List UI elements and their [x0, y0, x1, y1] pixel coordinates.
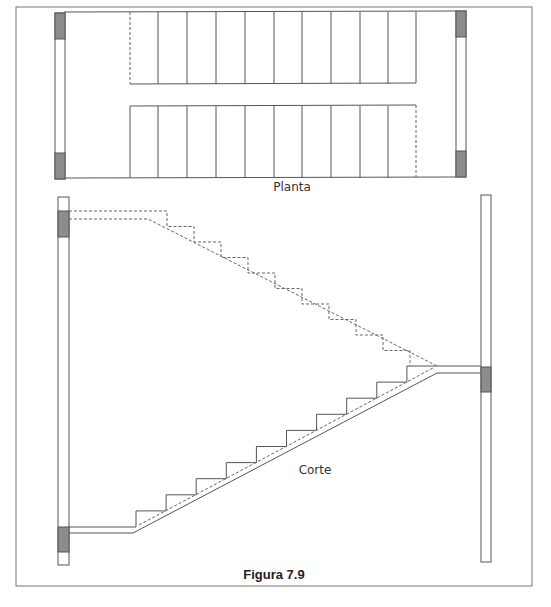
plan-column [456, 11, 466, 37]
plan-top-edge [64, 11, 456, 12]
plan-column [456, 151, 466, 177]
stair-drawing: Planta Corte [0, 0, 551, 607]
section-label: Corte [299, 463, 332, 477]
section-left-wall [58, 197, 69, 565]
plan-column [55, 153, 65, 179]
upper-flight-steps [69, 211, 410, 366]
figure-frame [16, 7, 532, 586]
plan-column [55, 13, 65, 39]
upper-flight-soffit [69, 219, 437, 366]
plan-beam-top [130, 83, 416, 84]
section-view [58, 195, 491, 565]
lower-flight-soffit [69, 373, 481, 533]
figure-caption: Figura 7.9 [16, 567, 532, 582]
plan-label: Planta [273, 180, 311, 194]
section-column [481, 367, 491, 392]
lower-flight-steps [69, 366, 481, 527]
section-column [58, 211, 69, 237]
lower-flight-hidden-line [139, 368, 433, 525]
plan-bottom-edge [64, 177, 456, 178]
section-column [58, 527, 69, 552]
plan-view [55, 11, 466, 179]
plan-beam-bottom [130, 105, 416, 106]
